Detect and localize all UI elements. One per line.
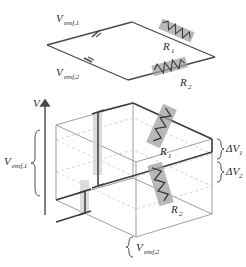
pd-emf1-label: V — [4, 155, 12, 167]
dv1-sub: 1 — [239, 149, 243, 157]
dv1-measure: ΔV 1 — [217, 139, 243, 159]
r2-body — [151, 57, 188, 77]
emf1-measure-left: V emf,1 — [4, 130, 40, 196]
dv2-sub: 2 — [239, 172, 243, 180]
r2-3d-body — [147, 162, 174, 207]
top-r2-label: R — [179, 76, 187, 88]
pd-r2-label: R — [170, 203, 178, 215]
path-r2-drop — [136, 152, 212, 175]
resistor-r2-symbol — [151, 57, 188, 77]
top-r2-sub: 2 — [188, 83, 192, 91]
top-emf2-label: V — [56, 66, 64, 78]
potential-diagram-group: V V emf,1 ΔV 1 ΔV 2 V — [4, 97, 243, 257]
pd-emf2-sub: emf,2 — [144, 248, 160, 256]
top-emf2-sub: emf,2 — [64, 73, 80, 81]
wire-top-left — [47, 22, 132, 45]
emf1-brace — [31, 130, 40, 196]
emf2-brace — [126, 237, 133, 257]
circuit-path-3d — [56, 103, 212, 222]
emf2-measure-bottom: V emf,2 — [126, 237, 160, 257]
emf1-long-plate — [92, 30, 100, 37]
box-outline — [56, 103, 212, 237]
figure-svg: V emf,1 V emf,2 R 1 R 2 — [0, 0, 246, 267]
dv1-brace — [217, 139, 224, 159]
pd-r1-sub: 1 — [168, 152, 172, 160]
top-r1-label: R — [162, 40, 170, 52]
box-bottom-face — [56, 178, 212, 237]
dv2-measure: ΔV 2 — [217, 162, 243, 182]
emf2-short-plate — [88, 57, 94, 60]
resistor-r2-3d — [147, 162, 174, 207]
pd-r1-label: R — [159, 145, 167, 157]
figure-container: V emf,1 V emf,2 R 1 R 2 — [0, 0, 246, 267]
top-emf1-sub: emf,1 — [64, 19, 79, 27]
grid-plane-1 — [56, 118, 212, 177]
top-r1-sub: 1 — [171, 47, 175, 55]
pd-emf2-label: V — [136, 241, 144, 253]
grid-dashed-lines — [56, 118, 212, 209]
top-emf1-label: V — [56, 12, 64, 24]
v-axis-label: V — [33, 97, 41, 109]
box-top-face — [56, 103, 212, 162]
resistor-r1-symbol — [158, 19, 195, 43]
pd-emf1-sub: emf,1 — [12, 162, 27, 170]
top-circuit-group: V emf,1 V emf,2 R 1 R 2 — [47, 12, 215, 91]
dv2-brace — [217, 162, 224, 182]
pd-r2-sub: 2 — [179, 210, 183, 218]
